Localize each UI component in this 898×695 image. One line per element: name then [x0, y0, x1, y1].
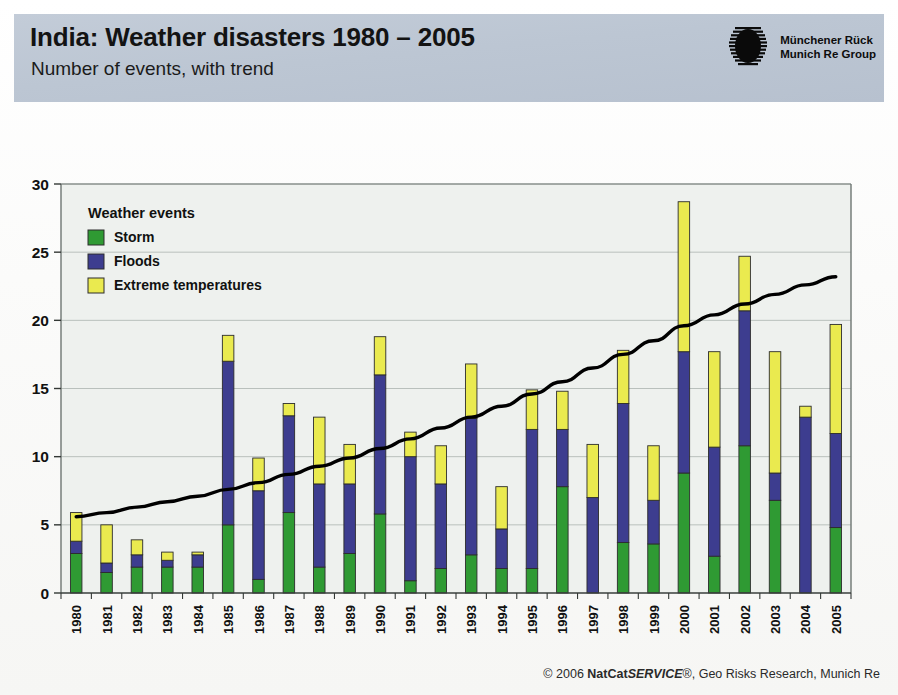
- bar-segment: [283, 416, 295, 513]
- x-tick-label: 1997: [586, 605, 601, 634]
- brand-logo-text: Münchener Rück Munich Re Group: [780, 33, 876, 62]
- bar-segment: [344, 553, 356, 593]
- brand-service: SERVICE: [628, 667, 683, 681]
- bar-segment: [405, 432, 417, 457]
- brand-logo: Münchener Rück Munich Re Group: [726, 24, 876, 70]
- bar-segment: [496, 487, 508, 529]
- brand-natcat: NatCat: [587, 667, 627, 681]
- bar-segment: [192, 552, 204, 555]
- y-tick-label: 20: [32, 312, 49, 329]
- bar-segment: [131, 555, 143, 567]
- bar-segment: [617, 350, 629, 403]
- x-tick-label: 1994: [495, 604, 510, 634]
- weather-disasters-stacked-bar-chart: 051015202530 198019811982198319841985198…: [0, 100, 898, 660]
- bar-segment: [830, 324, 842, 433]
- bar-segment: [162, 560, 174, 567]
- page-title: India: Weather disasters 1980 – 2005: [30, 22, 475, 53]
- bar-segment: [162, 567, 174, 593]
- bar-segment: [192, 567, 204, 593]
- copyright-symbol: ©: [543, 667, 552, 681]
- bar-segment: [800, 417, 812, 593]
- bar-segment: [496, 529, 508, 569]
- bar-segment: [131, 567, 143, 593]
- x-tick-label: 1981: [100, 605, 115, 634]
- x-tick-label: 1984: [191, 604, 206, 634]
- bar-segment: [587, 444, 599, 497]
- x-tick-label: 1980: [69, 605, 84, 634]
- x-tick-label: 1991: [403, 605, 418, 634]
- bar-segment: [101, 573, 113, 593]
- bar-segment: [131, 540, 143, 555]
- bar-segment: [101, 563, 113, 573]
- page-root: India: Weather disasters 1980 – 2005 Num…: [0, 0, 898, 695]
- x-tick-label: 1995: [525, 605, 540, 634]
- y-tick-label: 30: [32, 176, 49, 193]
- bar-segment: [648, 446, 660, 501]
- bar-segment: [648, 500, 660, 544]
- bar-segment: [405, 581, 417, 593]
- bar-segment: [253, 491, 265, 580]
- x-tick-label: 1987: [282, 605, 297, 634]
- x-tick-label: 2003: [768, 605, 783, 634]
- bar-segment: [435, 484, 447, 569]
- x-tick-label: 1990: [373, 605, 388, 634]
- brand-line-en: Munich Re Group: [780, 47, 876, 61]
- x-tick-label: 2004: [798, 604, 813, 634]
- bar-segment: [465, 364, 477, 419]
- x-tick-label: 1998: [616, 605, 631, 634]
- bar-segment: [709, 352, 721, 447]
- brand-line-de: Münchener Rück: [780, 33, 876, 47]
- x-tick-label: 2005: [829, 605, 844, 634]
- bar-segment: [101, 525, 113, 563]
- bar-segment: [314, 484, 326, 567]
- bar-segment: [617, 543, 629, 593]
- bar-segment: [314, 567, 326, 593]
- bar-segment: [678, 352, 690, 473]
- bar-segment: [314, 417, 326, 484]
- bar-segment: [222, 361, 234, 525]
- x-tick-label: 1996: [555, 605, 570, 634]
- legend-swatch: [88, 230, 104, 245]
- y-tick-label: 15: [32, 380, 50, 397]
- bar-segment: [192, 555, 204, 567]
- legend-title: Weather events: [88, 205, 195, 221]
- copyright-year: 2006: [556, 667, 584, 681]
- bar-segment: [557, 429, 569, 486]
- bar-segment: [769, 352, 781, 473]
- y-tick-label: 10: [32, 448, 49, 465]
- legend-swatch: [88, 278, 104, 293]
- x-tick-label: 1986: [252, 605, 267, 634]
- bar-segment: [557, 391, 569, 429]
- bar-segment: [830, 528, 842, 593]
- slide-header: India: Weather disasters 1980 – 2005 Num…: [14, 14, 884, 102]
- bar-segment: [70, 553, 82, 593]
- bar-segment: [678, 202, 690, 352]
- legend-label: Storm: [114, 229, 154, 245]
- x-tick-label: 1989: [343, 605, 358, 634]
- x-tick-label: 1999: [647, 605, 662, 634]
- chart-container: 051015202530 198019811982198319841985198…: [0, 100, 898, 660]
- bar-segment: [405, 457, 417, 581]
- bar-segment: [435, 568, 447, 593]
- bar-segment: [830, 433, 842, 527]
- bar-segment: [253, 579, 265, 593]
- x-tick-label: 1985: [221, 605, 236, 634]
- bar-segment: [739, 446, 751, 593]
- bar-segment: [709, 556, 721, 593]
- x-tick-label: 1993: [464, 605, 479, 634]
- bar-segment: [769, 500, 781, 593]
- bar-segment: [739, 311, 751, 446]
- legend-label: Floods: [114, 253, 160, 269]
- bar-segment: [465, 555, 477, 593]
- bar-segment: [374, 375, 386, 514]
- bar-segment: [465, 418, 477, 554]
- bar-segment: [253, 458, 265, 491]
- bar-segment: [283, 403, 295, 415]
- registered-symbol: ®: [683, 667, 692, 681]
- x-tick-label: 1982: [130, 605, 145, 634]
- x-tick-label: 1983: [160, 605, 175, 634]
- bar-segment: [222, 525, 234, 593]
- bar-segment: [344, 484, 356, 554]
- y-tick-label: 25: [32, 244, 50, 261]
- footer-rest: , Geo Risks Research, Munich Re: [692, 667, 880, 681]
